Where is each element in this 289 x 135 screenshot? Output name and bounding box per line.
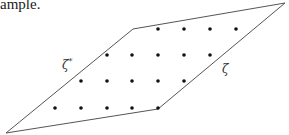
- lattice-point: [156, 27, 160, 31]
- star-superscript: *: [69, 57, 73, 66]
- lattice-point: [156, 53, 160, 57]
- zeta-symbol: ζ: [222, 62, 229, 76]
- lattice-point: [182, 79, 186, 83]
- lattice-point: [105, 53, 109, 57]
- lattice-point: [156, 79, 160, 83]
- lattice-points: [53, 27, 238, 110]
- lattice-point: [53, 106, 57, 110]
- lattice-point: [182, 27, 186, 31]
- lattice-point: [208, 27, 212, 31]
- lattice-point: [234, 27, 238, 31]
- lattice-diagram: [0, 0, 289, 135]
- lattice-point: [79, 106, 83, 110]
- parallelogram-outline: [6, 3, 285, 133]
- lattice-point: [208, 53, 212, 57]
- lattice-point: [182, 53, 186, 57]
- lattice-point: [130, 79, 134, 83]
- lattice-point: [130, 53, 134, 57]
- edge-label-zeta: ζ: [222, 63, 229, 75]
- lattice-point: [130, 106, 134, 110]
- edge-label-zeta-star: ζ*: [62, 58, 73, 71]
- lattice-point: [105, 106, 109, 110]
- lattice-point: [156, 106, 160, 110]
- lattice-point: [105, 79, 109, 83]
- lattice-point: [79, 79, 83, 83]
